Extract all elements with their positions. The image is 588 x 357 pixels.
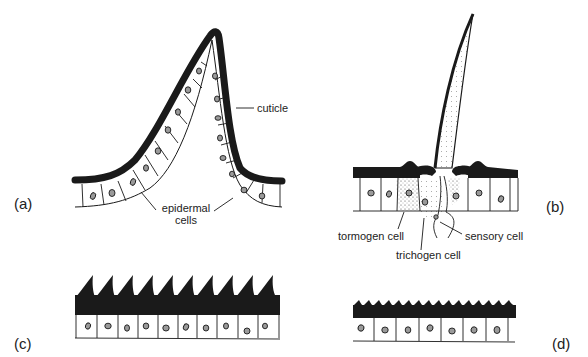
label-trichogen-cell: trichogen cell [396,250,461,261]
panel-b-drawing [353,14,518,250]
panel-a-drawing [75,32,282,211]
ridges-d [353,300,515,306]
diagram-canvas [0,0,588,357]
panel-c-drawing [75,275,280,339]
label-cuticle: cuticle [257,103,288,114]
label-sensory-cell: sensory cell [465,231,523,242]
label-epidermal-line2: cells [158,215,214,226]
panel-label-c: (c) [14,336,32,351]
spines-c [76,275,276,297]
panel-label-b: (b) [546,199,564,214]
panel-d-drawing [353,300,516,342]
panel-label-a: (a) [14,196,32,211]
label-tormogen-cell: tormogen cell [338,231,404,242]
panel-label-d: (d) [552,336,570,351]
label-epidermal-line1: epidermal [158,203,214,214]
